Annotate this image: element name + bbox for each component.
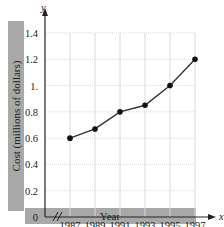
- y-tick-label: 0.4: [25, 159, 39, 170]
- x-tick-label: 1989: [85, 220, 106, 227]
- x-tick-label: 1987: [60, 220, 81, 227]
- x-axis-arrow-icon: [208, 214, 216, 220]
- x-tick-label: 1995: [160, 220, 181, 227]
- x-tick-label: 1997: [185, 220, 206, 227]
- x-axis-symbol: x: [218, 211, 224, 222]
- data-point: [167, 83, 173, 89]
- y-tick-label: 0.8: [25, 107, 38, 118]
- x-tick-labels: 198719891991199319951997: [60, 220, 206, 227]
- y-axis-symbol: y: [40, 2, 46, 13]
- x-tick-label: 1991: [110, 220, 131, 227]
- x-tick-label: 1993: [135, 220, 156, 227]
- data-line: [70, 59, 195, 138]
- y-tick-label: 1.4: [25, 28, 39, 39]
- data-point: [192, 56, 198, 62]
- chart-plot: y x 00.20.40.60.81.1.21.4 19871989199119…: [0, 0, 224, 227]
- data-point: [142, 102, 148, 108]
- y-tick-labels: 00.20.40.60.81.1.21.4: [25, 28, 39, 223]
- y-tick-label: 0: [33, 212, 38, 223]
- y-tick-label: 1.: [30, 81, 38, 92]
- data-point: [92, 126, 98, 132]
- y-tick-label: 1.2: [25, 54, 38, 65]
- grid-lines: [46, 33, 195, 217]
- data-series: [67, 56, 198, 140]
- data-point: [117, 109, 123, 115]
- data-point: [67, 135, 73, 141]
- y-tick-label: 0.2: [25, 186, 38, 197]
- y-tick-label: 0.6: [25, 133, 38, 144]
